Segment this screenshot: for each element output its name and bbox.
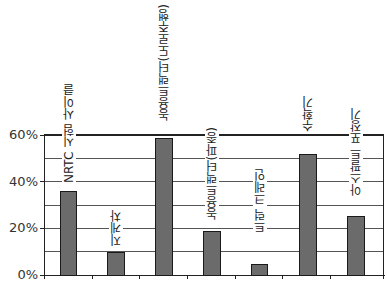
category-label-forklift: 지게차: [109, 208, 123, 248]
category-label-tractor-seeding: 농용트랙터(파종): [205, 125, 219, 222]
x-tick: [44, 275, 45, 279]
bar-chart: 60% 40% 20% 0% NRTC 시험 사이클 지게차 농용트랙터(도로주…: [0, 0, 387, 301]
bar-nrtc: [60, 191, 77, 276]
x-tick: [139, 275, 140, 279]
bar-tractor-seeding: [203, 231, 221, 276]
category-label-nrtc: NRTC 시험 사이클: [62, 82, 76, 185]
y-tick-label-60: 60%: [0, 128, 38, 142]
y-tick-mark-40: [40, 181, 45, 182]
bar-harvester: [299, 154, 317, 276]
bar-tractor-road: [155, 138, 173, 276]
bar-forklift: [107, 252, 125, 276]
x-tick: [92, 275, 93, 279]
y-tick-mark-20: [40, 228, 45, 229]
x-tick: [383, 275, 384, 279]
x-tick: [330, 275, 331, 279]
plot-right-border: [383, 135, 384, 276]
gridline-20: [44, 228, 384, 229]
category-label-truck-crane: 트럭 크레인: [253, 167, 267, 235]
x-tick: [187, 275, 188, 279]
y-tick-mark-60: [40, 135, 45, 136]
bar-truck-crane: [251, 264, 268, 276]
x-tick: [282, 275, 283, 279]
bar-asphalt-paver: [347, 216, 365, 276]
y-tick-label-40: 40%: [0, 175, 38, 189]
y-axis: [44, 135, 45, 276]
y-tick-label-20: 20%: [0, 221, 38, 235]
x-tick: [235, 275, 236, 279]
category-label-harvester: 수확기: [301, 94, 315, 134]
category-label-tractor-road: 농용트랙터(도로주행): [157, 2, 171, 123]
category-label-asphalt-paver: 아스팔트 포장기: [349, 106, 363, 198]
y-tick-label-0: 0%: [0, 268, 38, 282]
